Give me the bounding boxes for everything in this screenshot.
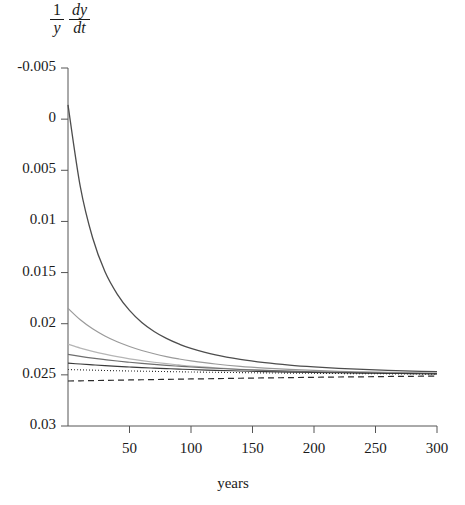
data-series-group (68, 105, 437, 381)
curve-3 (68, 344, 437, 374)
curve-7-dashed (68, 376, 437, 381)
y-tick-label: 0.01 (0, 211, 56, 228)
y-tick-label: 0.02 (0, 314, 56, 331)
x-tick-label: 150 (228, 440, 278, 457)
y-tick-marks (61, 68, 68, 426)
y-tick-label: 0 (0, 109, 56, 126)
y-tick-label: 0.025 (0, 365, 56, 382)
y-tick-label: -0.005 (0, 58, 56, 75)
plot-svg (0, 0, 465, 505)
y-tick-label: 0.015 (0, 263, 56, 280)
x-tick-label: 300 (412, 440, 462, 457)
curve-2 (68, 308, 437, 373)
x-tick-label: 200 (289, 440, 339, 457)
x-tick-marks (130, 426, 438, 433)
curve-1 (68, 105, 437, 372)
x-tick-label: 250 (351, 440, 401, 457)
x-axis-title: years (168, 475, 298, 492)
y-tick-label: 0.03 (0, 416, 56, 433)
chart-container: 1 y dy dt 0.030.0250.020.0150.010.0050-0… (0, 0, 465, 505)
x-tick-label: 100 (166, 440, 216, 457)
x-tick-label: 50 (105, 440, 155, 457)
y-tick-label: 0.005 (0, 160, 56, 177)
